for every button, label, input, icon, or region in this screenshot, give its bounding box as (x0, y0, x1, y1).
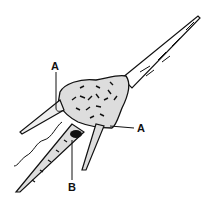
label-a-right: A (137, 122, 145, 134)
left-process (20, 100, 64, 134)
label-a-upper: A (51, 60, 59, 72)
long-process (122, 16, 200, 88)
dark-organelle (70, 130, 82, 138)
label-b: B (68, 181, 76, 193)
diagram-canvas: A A B (0, 0, 213, 208)
cell-body (58, 75, 129, 128)
lower-right-process (82, 124, 104, 170)
cell-illustration: A A B (0, 0, 213, 208)
